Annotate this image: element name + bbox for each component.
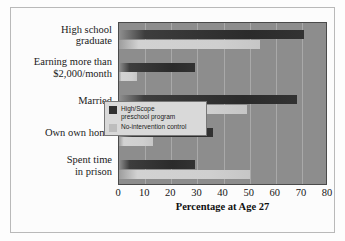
bar-control [119, 170, 250, 179]
category-label-line: Married [0, 95, 112, 107]
x-tick-label: 80 [314, 187, 340, 198]
x-tick-label: 20 [157, 187, 183, 198]
category-label-line: in prison [0, 166, 112, 178]
category-label-line: Spent time [0, 154, 112, 166]
category-label-2: Earning more than$2,000/month [0, 56, 112, 79]
x-tick-label: 40 [210, 187, 236, 198]
category-label-4: Own own home [0, 127, 112, 139]
bar-treatment [119, 160, 195, 169]
category-label-line: Own own home [0, 127, 112, 139]
x-axis-label: Percentage at Age 27 [118, 201, 327, 212]
x-tick-label: 70 [288, 187, 314, 198]
legend-swatch-icon [109, 124, 117, 132]
bar-control [119, 72, 137, 81]
category-label-line: $2,000/month [0, 68, 112, 80]
legend-label: High/Scopepreschool program [121, 105, 175, 120]
legend-entry-1: High/Scopepreschool program [109, 105, 203, 120]
bar-treatment [119, 63, 195, 72]
category-label-3: Married [0, 95, 112, 107]
x-tick-label: 0 [105, 187, 131, 198]
category-label-line: graduate [0, 35, 112, 47]
bar-control [119, 40, 260, 49]
category-label-5: Spent timein prison [0, 154, 112, 177]
x-tick-label: 30 [183, 187, 209, 198]
x-tick-label: 50 [236, 187, 262, 198]
legend-swatch-icon [109, 106, 117, 114]
chart-figure: High schoolgraduateEarning more than$2,0… [0, 0, 345, 241]
category-label-1: High schoolgraduate [0, 24, 112, 47]
category-label-line: High school [0, 24, 112, 36]
legend-entry-2: No-intervention control [109, 123, 203, 132]
x-axis-ticks: 01020304050607080 [118, 187, 327, 200]
x-tick-label: 60 [262, 187, 288, 198]
legend-label: No-intervention control [121, 123, 186, 131]
bar-treatment [119, 30, 304, 39]
chart-legend: High/Scopepreschool programNo-interventi… [104, 101, 207, 136]
bar-control [119, 137, 153, 146]
category-label-line: Earning more than [0, 56, 112, 68]
x-tick-label: 10 [131, 187, 157, 198]
